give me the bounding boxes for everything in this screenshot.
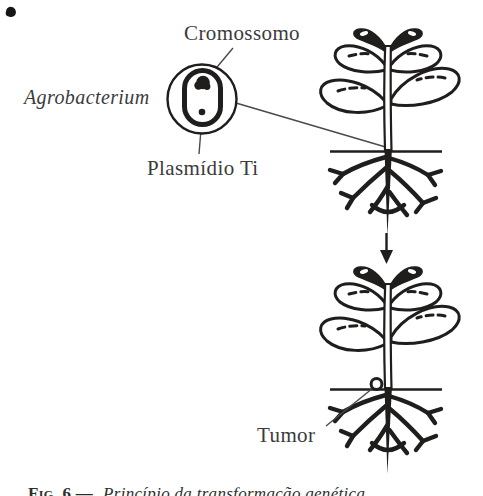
chromosome-label: Cromossomo xyxy=(184,21,300,46)
tumor-circle xyxy=(371,379,382,390)
plant-with-tumor xyxy=(321,267,460,474)
tumor-label: Tumor xyxy=(257,423,315,448)
ti-plasmid-label: Plasmídio Ti xyxy=(147,156,259,181)
plant-healthy xyxy=(321,29,460,236)
figure-caption: Fig. 6 —Princípio da transformação genét… xyxy=(28,484,365,496)
figure-agrobacterium-transformation: Cromossomo Agrobacterium Plasmídio Ti Tu… xyxy=(0,0,483,496)
ti-plasmid-dot xyxy=(199,109,206,116)
diagram-drawing xyxy=(0,0,483,496)
figure-number: Fig. 6 — xyxy=(28,484,93,496)
figure-caption-text: Princípio da transformação genética xyxy=(103,484,365,496)
agrobacterium-label: Agrobacterium xyxy=(24,86,150,109)
transformation-arrow xyxy=(380,233,393,264)
